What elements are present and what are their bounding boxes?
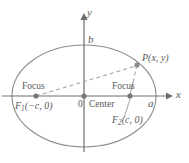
- origin-point-marker: [81, 93, 86, 98]
- point-p-coordinates: (x, y): [148, 52, 169, 63]
- focus-left-point-marker: [33, 93, 38, 98]
- focus-left-label: Focus: [22, 82, 45, 92]
- x-axis-label: x: [176, 89, 181, 100]
- focus-right-label: Focus: [112, 82, 135, 92]
- focus-right-coord-rest: (c, 0): [122, 114, 143, 125]
- focus-left-coordinates-label: F1(−c, 0): [15, 101, 53, 113]
- focus-right-coordinates-label: F2(c, 0): [112, 115, 143, 127]
- center-label: Center: [89, 100, 114, 110]
- y-axis-label: y: [87, 7, 92, 18]
- semi-minor-axis-label-b: b: [88, 34, 94, 45]
- point-p-label: P(x, y): [142, 53, 169, 63]
- semi-major-axis-label-a: a: [148, 98, 154, 109]
- point-p-marker: [134, 62, 139, 67]
- focus-left-coord-rest: (−c, 0): [25, 100, 53, 111]
- x-axis-arrowhead: [166, 92, 173, 99]
- ellipse-diagram: y x b a 0 Center Focus Focus F1(−c, 0) F…: [0, 0, 189, 163]
- focus-right-point-marker: [127, 93, 132, 98]
- origin-label: 0: [78, 100, 83, 110]
